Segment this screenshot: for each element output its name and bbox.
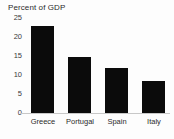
y-axis-tick-label: 20 bbox=[0, 33, 22, 41]
y-axis-tick-label: 5 bbox=[0, 90, 22, 98]
bar-portugal bbox=[68, 57, 91, 113]
bar-slot bbox=[30, 18, 55, 113]
zero-baseline bbox=[20, 113, 170, 114]
bar-slot bbox=[141, 18, 166, 113]
chart-title: Percent of GDP bbox=[8, 3, 65, 12]
y-axis-tick-label: 0 bbox=[0, 109, 22, 117]
plot-area bbox=[26, 18, 168, 113]
x-axis: Greece Portugal Spain Italy bbox=[26, 117, 168, 131]
y-axis: 25 20 15 10 5 0 bbox=[0, 18, 22, 113]
bar-slot bbox=[104, 18, 129, 113]
bar-greece bbox=[31, 26, 54, 113]
bar-chart-figure: Percent of GDP 25 20 15 10 5 0 Greece Po… bbox=[0, 0, 174, 139]
y-axis-tick-label: 25 bbox=[0, 14, 22, 22]
y-axis-tick-label: 15 bbox=[0, 52, 22, 60]
bar-slot bbox=[67, 18, 92, 113]
y-axis-tick-label: 10 bbox=[0, 71, 22, 79]
bar-italy bbox=[142, 81, 165, 113]
bar-spain bbox=[105, 68, 128, 113]
x-axis-label-italy: Italy bbox=[132, 117, 174, 126]
